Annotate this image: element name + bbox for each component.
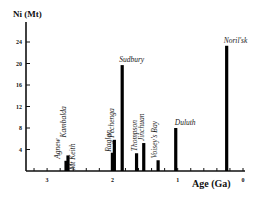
bar-duluth: [174, 128, 177, 171]
y-tick-label: 8: [19, 125, 22, 131]
bar-jinchuan: [142, 143, 145, 171]
x-tick-label: 3: [46, 177, 49, 183]
bar-label-mt-keith: Mt Keith: [68, 143, 77, 171]
bar-label-kambalda: Kambalda: [59, 106, 68, 139]
bar-labels: AgnewKambaldaMt KeithRaglanPechengaSudbu…: [53, 36, 248, 171]
y-tick-label: 16: [16, 82, 22, 88]
x-tick-label: 1: [176, 177, 179, 183]
y-tick-label: 12: [16, 104, 22, 110]
y-tick-label: 24: [16, 39, 22, 45]
bar-thompson: [135, 153, 138, 171]
bar-label-duluth: Duluth: [174, 118, 196, 127]
y-ticks: 4812162024: [16, 39, 30, 153]
x-tick-label: 0: [242, 177, 245, 183]
x-tick-label: 2: [111, 177, 114, 183]
bar-noril-sk: [225, 46, 228, 171]
bar-label-voisey-s-bay: Voisey's Bay: [150, 120, 159, 158]
bar-label-sudbury: Sudbury: [119, 55, 145, 64]
y-tick-label: 20: [16, 61, 22, 67]
y-axis-title: Ni (Mt): [13, 9, 42, 19]
bar-label-jinchuan: Jinchuan: [137, 113, 146, 141]
bar-sudbury: [121, 65, 124, 171]
y-tick-label: 4: [19, 147, 22, 153]
bar-label-noril-sk: Noril'sk: [223, 36, 248, 45]
bars: [64, 46, 228, 171]
bar-label-pechenga: Pechenga: [107, 108, 116, 139]
chart: Ni (Mt) Age (Ga) 4812162024 3210 AgnewKa…: [0, 0, 261, 197]
bar-voisey-s-bay: [157, 160, 160, 171]
x-axis-title: Age (Ga): [192, 178, 231, 190]
bar-label-agnew: Agnew: [53, 138, 62, 159]
